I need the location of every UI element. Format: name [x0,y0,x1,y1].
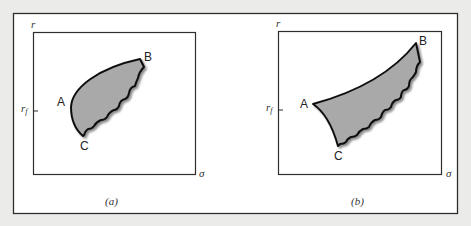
panel-a-x-axis-label: σ [199,167,205,179]
panel-b-point-a-label: A [300,97,308,111]
panel-b-point-c-label: C [334,149,343,163]
panel-b-caption: (b) [351,195,364,208]
panel-a-point-c-label: C [80,139,89,153]
panel-a-y-axis-label: r [31,18,36,30]
panel-a-caption: (a) [105,195,118,208]
panel-b-x-axis-label: σ [446,167,452,179]
panel-b-y-axis-label: r [276,17,281,29]
risk-return-diagram: r σ rf A B C (a) r σ rf A B C (b) [0,0,471,226]
panel-a-point-a-label: A [57,95,65,109]
panel-b-point-b-label: B [419,34,427,48]
panel-a-point-b-label: B [144,50,152,64]
